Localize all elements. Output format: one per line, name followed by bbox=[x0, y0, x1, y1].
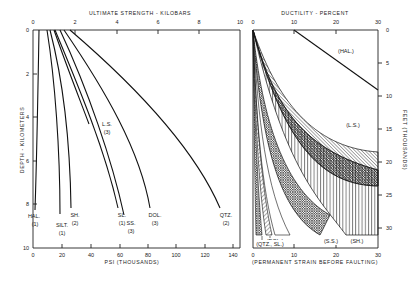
tick-ft-15: 15 bbox=[386, 126, 392, 132]
left-chart: ULTIMATE STRENGTH - KILOBARS 0 2 4 6 8 1… bbox=[19, 10, 243, 265]
tick-ft-20: 20 bbox=[386, 159, 392, 165]
label-qtz: QTZ. bbox=[220, 212, 233, 218]
label-ls-ductility: (L.S.) bbox=[346, 122, 360, 128]
tick-psi-0: 0 bbox=[31, 252, 34, 258]
right-y-axis: 0 5 10 15 20 25 30 FEET (THOUSANDS) bbox=[378, 27, 408, 231]
tick-psi-20: 20 bbox=[59, 252, 65, 258]
label-ls-count: (3) bbox=[104, 129, 111, 135]
curve-sh bbox=[50, 30, 71, 208]
tick-pct-top-20: 20 bbox=[333, 19, 339, 25]
right-x-label: (PERMANENT STRAIN BEFORE FAULTING) bbox=[252, 259, 378, 265]
tick-km-2: 2 bbox=[26, 71, 29, 77]
tick-psi-140: 140 bbox=[228, 252, 237, 258]
tick-km-8: 8 bbox=[26, 201, 29, 207]
label-ss-count: (3) bbox=[128, 228, 135, 234]
label-dol: DOL. bbox=[149, 212, 162, 218]
right-y-label: FEET (THOUSANDS) bbox=[402, 110, 408, 170]
curve-dol bbox=[64, 30, 150, 208]
curve-silt bbox=[47, 30, 60, 214]
tick-pct-30: 30 bbox=[375, 252, 381, 258]
curve-sl bbox=[55, 30, 118, 208]
left-x-label: PSI (THOUSANDS) bbox=[105, 259, 160, 265]
label-silt: SILT. bbox=[56, 222, 69, 228]
tick-psi-80: 80 bbox=[145, 252, 151, 258]
label-qtz-sl-ductility: (QTZ., SL.) bbox=[256, 241, 284, 247]
label-sh: SH. bbox=[70, 212, 80, 218]
label-silt-count: (1) bbox=[59, 230, 66, 236]
tick-km-0: 0 bbox=[26, 27, 29, 33]
curve-hal-ductility bbox=[294, 30, 378, 90]
figure: ULTIMATE STRENGTH - KILOBARS 0 2 4 6 8 1… bbox=[0, 0, 413, 289]
tick-pct-20: 20 bbox=[333, 252, 339, 258]
label-ss: SS. bbox=[127, 220, 136, 226]
tick-kbar-6: 6 bbox=[156, 19, 159, 25]
left-title: ULTIMATE STRENGTH - KILOBARS bbox=[89, 10, 191, 16]
tick-psi-40: 40 bbox=[88, 252, 94, 258]
tick-km-4: 4 bbox=[26, 114, 29, 120]
right-chart: DUCTILITY - PERCENT 0 10 20 30 bbox=[251, 10, 408, 265]
tick-ft-5: 5 bbox=[386, 60, 389, 66]
tick-psi-120: 120 bbox=[200, 252, 209, 258]
tick-psi-100: 100 bbox=[171, 252, 180, 258]
label-qtz-count: (2) bbox=[223, 220, 230, 226]
tick-pct-top-30: 30 bbox=[375, 19, 381, 25]
tick-kbar-8: 8 bbox=[197, 19, 200, 25]
left-bottom-axis: 0 20 40 60 80 100 120 140 PSI (THOUSANDS… bbox=[31, 244, 237, 265]
label-hal-count: (1) bbox=[32, 221, 39, 227]
label-hal: HAL. bbox=[28, 213, 41, 219]
label-sl-count: (1) bbox=[119, 220, 126, 226]
tick-ft-0: 0 bbox=[386, 27, 389, 33]
tick-kbar-4: 4 bbox=[115, 19, 118, 25]
left-curves bbox=[35, 30, 220, 215]
label-ss-ductility: (S.S.) bbox=[324, 238, 338, 244]
left-y-axis: 0 2 4 6 8 10 DEPTH - KILOMETERS bbox=[19, 27, 240, 251]
tick-kbar-0: 0 bbox=[31, 19, 34, 25]
right-title: DUCTILITY - PERCENT bbox=[281, 10, 349, 16]
tick-km-10: 10 bbox=[23, 245, 29, 251]
tick-km-6: 6 bbox=[26, 158, 29, 164]
tick-ft-10: 10 bbox=[386, 93, 392, 99]
tick-pct-10: 10 bbox=[291, 252, 297, 258]
tick-kbar-10: 10 bbox=[237, 19, 243, 25]
curve-ls bbox=[54, 30, 89, 124]
tick-ft-30: 30 bbox=[386, 225, 392, 231]
label-sh-ductility: (SH.) bbox=[351, 238, 364, 244]
curve-hal bbox=[35, 30, 39, 210]
tick-ft-25: 25 bbox=[386, 192, 392, 198]
curve-qtz bbox=[70, 30, 220, 208]
right-top-axis: 0 10 20 30 bbox=[251, 19, 381, 25]
left-curve-labels: HAL. (1) SILT. (1) SH. (2) L.S. (3) SL. … bbox=[28, 121, 233, 236]
right-bands bbox=[253, 30, 378, 235]
label-dol-count: (3) bbox=[152, 220, 159, 226]
label-hal-ductility: (HAL.) bbox=[338, 48, 354, 54]
tick-psi-60: 60 bbox=[117, 252, 123, 258]
tick-kbar-2: 2 bbox=[73, 19, 76, 25]
left-y-label: DEPTH - KILOMETERS bbox=[19, 107, 25, 173]
label-sl: SL. bbox=[118, 212, 127, 218]
right-bottom-axis: 0 10 20 30 (PERMANENT STRAIN BEFORE FAUL… bbox=[251, 252, 381, 265]
tick-pct-0: 0 bbox=[251, 252, 254, 258]
label-sh-count: (2) bbox=[72, 220, 79, 226]
left-top-axis: 0 2 4 6 8 10 bbox=[31, 19, 243, 248]
tick-pct-top-10: 10 bbox=[291, 19, 297, 25]
label-ls: L.S. bbox=[102, 121, 112, 127]
tick-pct-top-0: 0 bbox=[251, 19, 254, 25]
